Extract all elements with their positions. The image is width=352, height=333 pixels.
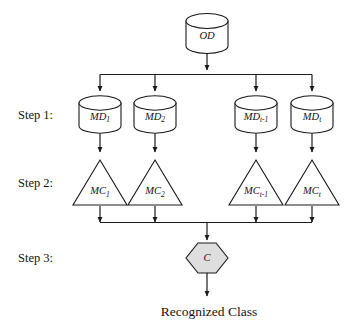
node-mc2[interactable]: MC2 <box>128 160 182 205</box>
diagram-canvas: OD MD1 MD2 <box>0 0 352 333</box>
step-label-3: Step 3: <box>18 251 53 265</box>
step-label-1: Step 1: <box>18 108 53 122</box>
node-mct[interactable]: MCt <box>285 160 339 205</box>
step-label-2: Step 2: <box>18 176 53 190</box>
node-md2[interactable]: MD2 <box>134 96 176 133</box>
node-md1[interactable]: MD1 <box>79 96 121 133</box>
node-od[interactable]: OD <box>186 14 228 54</box>
fanout-bus <box>100 75 312 92</box>
node-mdt[interactable]: MDt <box>291 96 333 133</box>
node-od-label: OD <box>199 30 215 41</box>
output-label: Recognized Class <box>161 304 257 319</box>
node-mdt1[interactable]: MDt-1 <box>235 96 277 133</box>
node-combiner-label: C <box>203 252 211 263</box>
node-mdt-label: MDt <box>302 111 322 124</box>
node-mc1[interactable]: MC1 <box>73 160 127 205</box>
edges-step1-to-step2 <box>100 134 312 153</box>
node-combiner[interactable]: C <box>186 243 228 273</box>
pipeline-diagram: OD MD1 MD2 <box>0 0 352 333</box>
merge-bus <box>100 206 312 240</box>
node-mct1[interactable]: MCt-1 <box>229 160 283 205</box>
